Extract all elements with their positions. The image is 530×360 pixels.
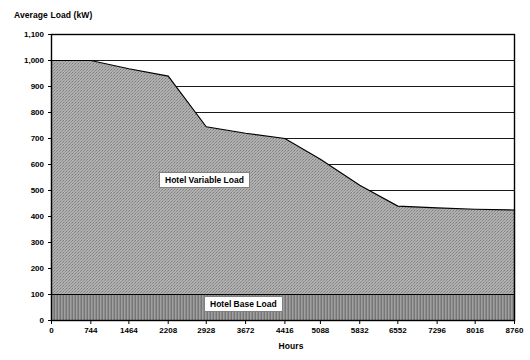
y-axis-tick-label: 200 (8, 264, 44, 273)
x-axis-tick-label: 8760 (506, 326, 524, 335)
x-axis-tick-label: 4416 (276, 326, 294, 335)
y-axis-tick-label: 300 (8, 238, 44, 247)
y-axis-title: Average Load (kW) (14, 10, 92, 20)
y-axis-tick-label: 100 (8, 290, 44, 299)
y-axis-tick-label: 400 (8, 212, 44, 221)
y-axis-tick-label: 800 (8, 108, 44, 117)
x-axis-tick-label: 1464 (120, 326, 138, 335)
y-axis-tick-label: 700 (8, 134, 44, 143)
series-label-base-load: Hotel Base Load (204, 296, 283, 312)
load-duration-chart: Average Load (kW) 0100200300400500600700… (0, 0, 530, 360)
y-axis-tick-label: 1,100 (8, 30, 44, 39)
x-axis-tick-label: 2208 (159, 326, 177, 335)
y-axis-tick-label: 900 (8, 82, 44, 91)
y-axis-tick-label: 1,000 (8, 56, 44, 65)
y-axis-tick-label: 600 (8, 160, 44, 169)
y-axis-tick-label: 0 (8, 316, 44, 325)
x-axis-tick-label: 0 (49, 326, 53, 335)
x-axis-tick-label: 5832 (351, 326, 369, 335)
x-axis-tick-label: 2928 (197, 326, 215, 335)
y-axis-tick-label: 500 (8, 186, 44, 195)
x-axis-tick-label: 6552 (389, 326, 407, 335)
x-axis-tick-label: 744 (84, 326, 97, 335)
x-axis-tick-label: 5088 (312, 326, 330, 335)
x-axis-title: Hours (26, 341, 530, 351)
x-axis-tick-label: 7296 (428, 326, 446, 335)
area-base-load (52, 295, 515, 321)
x-axis-tick-label: 8016 (466, 326, 484, 335)
series-label-variable-load: Hotel Variable Load (159, 172, 250, 188)
x-axis-tick-label: 3672 (237, 326, 255, 335)
